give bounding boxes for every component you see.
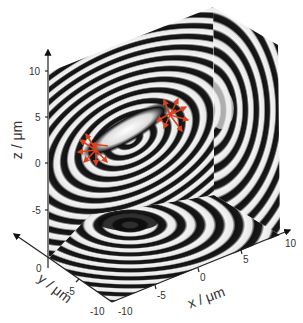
y-tick-neg10: -10 — [90, 306, 105, 317]
z-tick-5: 5 — [35, 112, 41, 123]
z-axis-label: z / μm — [9, 121, 25, 159]
z-axis — [45, 50, 48, 268]
z-tick-10: 10 — [29, 66, 41, 77]
y-axis-label: y / μm — [35, 270, 75, 306]
x-tick-neg5: -5 — [157, 290, 166, 301]
fringe-cube-figure: 10 5 0 -5 0 -5 -10 -10 -5 0 5 10 z / μm … — [0, 0, 303, 323]
z-tick-0: 0 — [35, 158, 41, 169]
x-tick-10: 10 — [285, 238, 297, 249]
x-axis-label: x / μm — [186, 283, 228, 311]
z-tick-neg5: -5 — [32, 205, 41, 216]
x-tick-neg10: -10 — [118, 306, 133, 317]
x-tick-5: 5 — [243, 254, 249, 265]
y-tick-0: 0 — [36, 263, 42, 274]
x-tick-0: 0 — [200, 272, 206, 283]
bottom-focus-shadow — [98, 213, 158, 231]
